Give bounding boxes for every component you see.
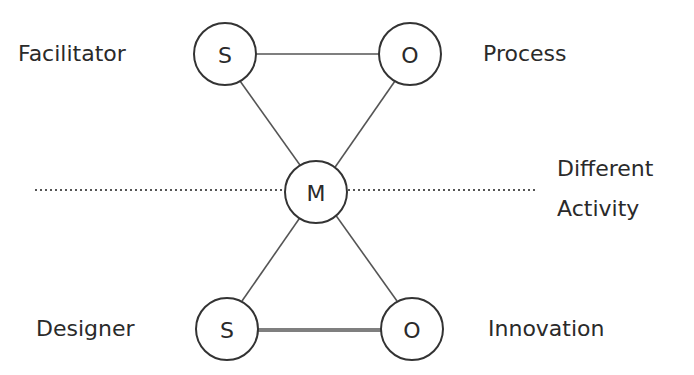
label-innovation: Innovation <box>488 316 604 341</box>
node-letter: S <box>218 43 232 68</box>
node-letter: S <box>220 318 234 343</box>
label-designer: Designer <box>36 316 135 341</box>
node-s-bottom: S <box>196 298 258 360</box>
label-facilitator: Facilitator <box>18 41 127 66</box>
node-o-bottom: O <box>381 298 443 360</box>
node-m-middle: M <box>285 161 347 223</box>
node-s-top: S <box>194 23 256 85</box>
node-letter: M <box>307 181 326 206</box>
node-o-top: O <box>379 23 441 85</box>
label-activity: Activity <box>557 196 639 221</box>
node-letter: O <box>401 43 418 68</box>
label-different: Different <box>557 156 654 181</box>
label-process: Process <box>483 41 566 66</box>
node-letter: O <box>403 318 420 343</box>
activity-diagram: S O M S O Facilitator Process Designer I… <box>0 0 694 375</box>
